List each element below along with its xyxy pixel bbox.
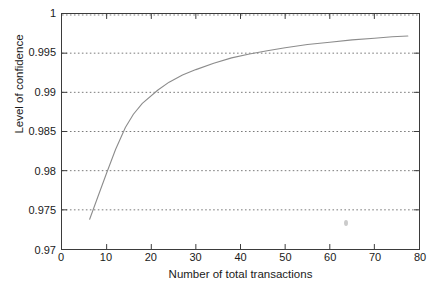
- x-axis-title: Number of total transactions: [61, 268, 420, 280]
- xtick-label-10: 10: [86, 252, 126, 263]
- scan-speck-artifact: [344, 220, 348, 226]
- xtick-label-40: 40: [221, 252, 261, 263]
- figure-canvas: 1 0.995 0.99 0.985 0.98 0.975 0.97 0 10 …: [0, 0, 442, 290]
- ytick-label-0.975: 0.975: [0, 205, 56, 216]
- plot-area: [61, 13, 420, 250]
- series-level-of-confidence: [90, 36, 408, 219]
- ytick-label-0.995: 0.995: [0, 47, 56, 58]
- xtick-label-80: 80: [400, 252, 440, 263]
- confidence-curve: [62, 14, 419, 249]
- ytick-label-1: 1: [0, 8, 56, 19]
- xtick-label-60: 60: [310, 252, 350, 263]
- y-axis-title: Level of confidence: [13, 14, 25, 154]
- xtick-label-20: 20: [131, 252, 171, 263]
- ytick-label-0.985: 0.985: [0, 126, 56, 137]
- xtick-label-30: 30: [176, 252, 216, 263]
- xtick-label-70: 70: [355, 252, 395, 263]
- xtick-label-0: 0: [41, 252, 81, 263]
- xtick-label-50: 50: [265, 252, 305, 263]
- ytick-label-0.99: 0.99: [0, 87, 56, 98]
- ytick-label-0.98: 0.98: [0, 166, 56, 177]
